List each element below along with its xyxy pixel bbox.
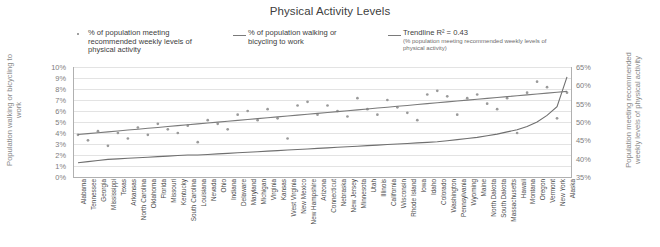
x-tick-label: New Jersey [350, 179, 357, 212]
x-tick-label: North Carolina [140, 179, 147, 220]
x-tick-label: Illinois [380, 179, 387, 197]
scatter-point [166, 128, 169, 131]
chart-title: Physical Activity Levels [0, 5, 660, 17]
x-tick-label: Hawaii [520, 179, 527, 198]
x-tick-label: South Carolina [190, 179, 197, 221]
x-tick-label: Ohio [220, 179, 227, 193]
x-tick-label: Delaware [240, 179, 247, 206]
y-axis-left-title: Population walking or bicycling to work [5, 49, 23, 171]
scatter-point [137, 126, 140, 129]
x-tick-label: Washington [450, 179, 457, 213]
x-tick-label: Tennessee [90, 179, 97, 210]
legend-label-scatter: % of population meeting recommended week… [88, 29, 206, 55]
x-tick-label: New York [559, 179, 566, 206]
chart-container: Physical Activity Levels % of population… [0, 0, 660, 247]
scatter-point [286, 137, 289, 140]
x-tick-label: West Virginia [290, 179, 297, 216]
scatter-point [306, 100, 309, 103]
x-tick-label: Louisiana [200, 179, 207, 206]
y-tick-right: 40% [576, 155, 604, 164]
y-tick-left: 3% [38, 140, 66, 149]
scatter-point [496, 108, 499, 111]
x-tick-label: South Dakota [500, 179, 507, 218]
plot-area [73, 67, 572, 177]
legend-label-walk-line: % of population walking or bicycling to … [248, 29, 366, 46]
scatter-point [446, 95, 449, 98]
x-tick-label: New Hampshire [310, 179, 317, 224]
y-tick-left: 7% [38, 96, 66, 105]
x-tick-label: New Mexico [300, 179, 307, 214]
x-tick-label: Pennsylvania [460, 179, 467, 217]
x-tick-label: Maine [480, 179, 487, 196]
line-marker-icon [232, 31, 248, 41]
scatter-point [156, 122, 159, 125]
scatter-point [226, 128, 229, 131]
scatter-point [176, 132, 179, 135]
legend-item-scatter[interactable]: % of population meeting recommended week… [72, 29, 206, 55]
y-tick-left: 9% [38, 74, 66, 83]
scatter-point [426, 93, 429, 96]
y-tick-left: 1% [38, 162, 66, 171]
y-tick-right: 60% [576, 81, 604, 90]
legend-item-trendline[interactable]: Trendline R² = 0.43 (% population meetin… [387, 29, 583, 52]
y-tick-left: 4% [38, 129, 66, 138]
plot-svg [73, 67, 572, 179]
scatter-point [196, 141, 199, 144]
scatter-point [147, 133, 150, 136]
x-tick-label: Kansas [280, 179, 287, 200]
x-tick-label: Nevada [210, 179, 217, 201]
scatter-point [346, 115, 349, 118]
x-tick-label: Texas [120, 179, 127, 196]
x-tick-label: Kentucky [180, 179, 187, 205]
x-tick-label: Montana [529, 179, 536, 204]
scatter-point [416, 119, 419, 122]
x-tick-label: Alabama [80, 179, 87, 204]
x-tick-label: Mississippi [110, 179, 117, 210]
x-tick-label: Indiana [230, 179, 237, 200]
scatter-point [556, 117, 559, 120]
scatter-point [127, 137, 130, 140]
scatter-point [296, 104, 299, 107]
x-tick-label: Oregon [539, 179, 546, 200]
x-axis-labels: AlabamaTennesseeGeorgiaMississippiTexasA… [73, 179, 572, 247]
x-tick-label: Arizona [320, 179, 327, 201]
scatter-point [536, 80, 539, 83]
x-tick-label: Iowa [420, 179, 427, 193]
y-tick-right: 35% [576, 173, 604, 182]
x-tick-label: Wyoming [470, 179, 477, 206]
scatter-point [546, 86, 549, 89]
x-tick-label: Colorado [440, 179, 447, 205]
y-tick-left: 6% [38, 107, 66, 116]
x-tick-label: Minnesota [360, 179, 367, 209]
chart-legend: % of population meeting recommended week… [72, 29, 632, 59]
scatter-point [516, 132, 519, 135]
legend-label-trendline: Trendline R² = 0.43 (% population meetin… [403, 29, 583, 52]
scatter-point [526, 91, 529, 94]
y-tick-right: 45% [576, 136, 604, 145]
x-tick-label: Massachusetts [510, 179, 517, 222]
x-tick-label: Oklahoma [150, 179, 157, 208]
x-tick-label: Maryland [250, 179, 257, 205]
trendline-marker-icon [387, 31, 403, 41]
x-tick-label: Michigan [260, 179, 267, 205]
scatter-point [436, 89, 439, 92]
scatter-point [206, 119, 209, 122]
y-tick-right: 65% [576, 63, 604, 72]
scatter-point [356, 97, 359, 100]
scatter-point [486, 102, 489, 105]
x-tick-label: Nebraska [340, 179, 347, 206]
legend-item-walk-line[interactable]: % of population walking or bicycling to … [232, 29, 366, 46]
scatter-point [107, 144, 110, 147]
scatter-point [216, 122, 219, 125]
x-tick-label: Idaho [430, 179, 437, 195]
y-axis-right-title: Population meeting recommended weekly le… [624, 49, 642, 171]
scatter-point [456, 113, 459, 116]
x-tick-label: Utah [370, 179, 377, 193]
scatter-point [376, 113, 379, 116]
x-tick-label: Georgia [100, 179, 107, 202]
x-tick-label: North Dakota [490, 179, 497, 217]
x-tick-label: Arkansas [130, 179, 137, 206]
x-tick-label: Connecticut [330, 179, 337, 213]
scatter-series [77, 80, 569, 147]
x-tick-label: Missouri [170, 179, 177, 203]
